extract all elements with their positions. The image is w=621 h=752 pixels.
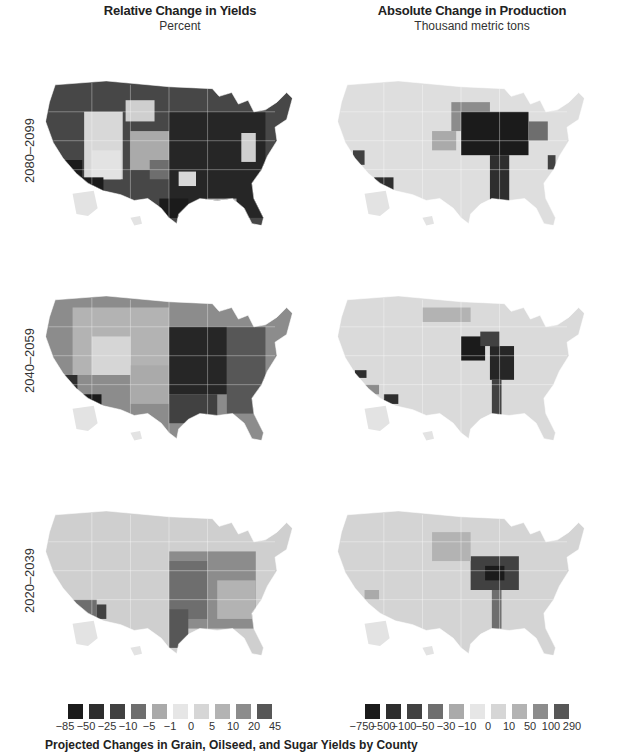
legend-label: −5: [143, 720, 156, 732]
legend-swatch: [365, 704, 380, 719]
legend-label: 10: [227, 720, 239, 732]
us-choropleth: [34, 275, 304, 475]
legend-label: −85: [56, 720, 75, 732]
legend-label: 50: [524, 720, 536, 732]
legend-label: 0: [188, 720, 194, 732]
legend-label: −50: [77, 720, 96, 732]
column-title: Absolute Change in Production: [322, 3, 621, 19]
column-title-absolute: Absolute Change in Production Thousand m…: [322, 0, 621, 33]
legend-swatch: [173, 704, 188, 719]
legend-swatch: [428, 704, 443, 719]
legend-label: −100: [392, 720, 417, 732]
legend-swatch: [449, 704, 464, 719]
legend-label: 290: [563, 720, 581, 732]
legend-label: 100: [542, 720, 560, 732]
legend-swatch: [194, 704, 209, 719]
map-relative-2080: [34, 60, 304, 260]
legend-swatch: [533, 704, 548, 719]
map-absolute-2020: [326, 490, 596, 690]
column-subtitle: Thousand metric tons: [322, 19, 621, 33]
legend-swatch: [407, 704, 422, 719]
legend-swatch: [236, 704, 251, 719]
legend-label: −50: [416, 720, 435, 732]
legend-swatch: [131, 704, 146, 719]
legend-swatch: [554, 704, 569, 719]
legend-swatch: [386, 704, 401, 719]
legend-label: 0: [485, 720, 491, 732]
legend-label: −30: [437, 720, 456, 732]
map-relative-2020: [34, 490, 304, 690]
legend-swatch: [68, 704, 83, 719]
legend-label: −25: [98, 720, 117, 732]
map-absolute-2040: [326, 275, 596, 475]
legend-swatch: [152, 704, 167, 719]
legend-swatch: [89, 704, 104, 719]
legend-label: −1: [164, 720, 177, 732]
legend-swatch: [470, 704, 485, 719]
us-choropleth: [34, 490, 304, 690]
map-absolute-2080: [326, 60, 596, 260]
legend-label: 5: [209, 720, 215, 732]
legend-label: 20: [248, 720, 260, 732]
us-choropleth: [326, 490, 596, 690]
legend-swatch: [215, 704, 230, 719]
us-choropleth: [326, 275, 596, 475]
figure-caption: Projected Changes in Grain, Oilseed, and…: [45, 738, 418, 752]
map-relative-2040: [34, 275, 304, 475]
legend-swatch: [512, 704, 527, 719]
legend-label: −10: [119, 720, 138, 732]
legend-swatch: [257, 704, 272, 719]
legend-label: 45: [269, 720, 281, 732]
legend-swatch: [110, 704, 125, 719]
us-choropleth: [34, 60, 304, 260]
legend-label: 10: [503, 720, 515, 732]
column-title: Relative Change in Yields: [30, 3, 330, 19]
column-title-relative: Relative Change in Yields Percent: [30, 0, 330, 33]
column-subtitle: Percent: [30, 19, 330, 33]
us-choropleth: [326, 60, 596, 260]
legend-swatch: [491, 704, 506, 719]
legend-label: −10: [458, 720, 477, 732]
